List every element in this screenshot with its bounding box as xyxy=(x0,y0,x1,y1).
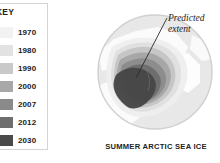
arctic-sea-ice-figure: KEY 1970 1980 1990 2000 2007 xyxy=(0,0,220,163)
legend-title: KEY xyxy=(0,7,14,17)
legend-panel: KEY 1970 1980 1990 2000 2007 xyxy=(0,3,48,150)
legend-swatch-1970 xyxy=(0,27,13,38)
legend-rows: 1970 1980 1990 2000 2007 2012 xyxy=(0,23,49,149)
legend-year-label: 2012 xyxy=(18,118,36,127)
legend-swatch-2007 xyxy=(0,99,13,110)
legend-item-2012: 2012 xyxy=(0,113,49,131)
legend-item-2030: 2030 xyxy=(0,131,49,149)
legend-swatch-2012 xyxy=(0,117,13,128)
predicted-extent-annotation: Predicted extent xyxy=(168,13,220,35)
legend-year-label: 1990 xyxy=(18,64,36,73)
legend-swatch-2030 xyxy=(0,135,13,146)
legend-year-label: 2000 xyxy=(18,82,36,91)
legend-item-2007: 2007 xyxy=(0,95,49,113)
annotation-line-2: extent xyxy=(168,24,220,35)
legend-year-label: 2030 xyxy=(18,136,36,145)
legend-swatch-1980 xyxy=(0,45,13,56)
legend-swatch-2000 xyxy=(0,81,13,92)
legend-item-1970: 1970 xyxy=(0,23,49,41)
legend-swatch-1990 xyxy=(0,63,13,74)
legend-year-label: 1970 xyxy=(18,28,36,37)
annotation-line-1: Predicted xyxy=(168,13,220,24)
legend-item-1980: 1980 xyxy=(0,41,49,59)
legend-year-label: 1980 xyxy=(18,46,36,55)
figure-caption: SUMMER ARCTIC SEA ICE xyxy=(92,142,220,151)
legend-item-2000: 2000 xyxy=(0,77,49,95)
legend-year-label: 2007 xyxy=(18,100,36,109)
legend-item-1990: 1990 xyxy=(0,59,49,77)
